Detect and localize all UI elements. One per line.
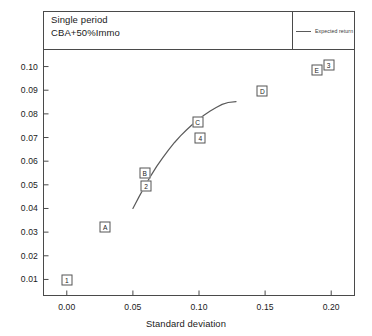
x-tick-label: 0.10 [179, 302, 219, 312]
data-point-marker-3: 3 [323, 60, 334, 71]
x-tick-label: 0.05 [113, 302, 153, 312]
plot-area: 1A2B4CDE3 [43, 50, 355, 296]
x-tick-label: 0.15 [245, 302, 285, 312]
data-point-marker-C: C [192, 117, 203, 128]
x-tick-label: 0.00 [47, 302, 87, 312]
title-line-2: CBA+50%Immo [51, 27, 281, 40]
legend-divider [292, 11, 293, 50]
y-tick-label: 0.08 [4, 109, 38, 119]
x-axis-label: Standard deviation [0, 318, 372, 329]
data-point-marker-2: 2 [141, 181, 152, 192]
data-point-marker-E: E [311, 65, 322, 76]
y-tick-label: 0.10 [4, 62, 38, 72]
y-tick-label: 0.09 [4, 85, 38, 95]
x-tick-label: 0.20 [311, 302, 351, 312]
data-point-marker-B: B [139, 168, 150, 179]
chart-figure: Single period CBA+50%Immo Expected retur… [0, 0, 372, 336]
title-line-1: Single period [51, 14, 281, 27]
chart-title: Single period CBA+50%Immo [51, 14, 281, 39]
y-tick-label: 0.04 [4, 203, 38, 213]
data-point-marker-1: 1 [61, 274, 72, 285]
y-tick-label: 0.05 [4, 180, 38, 190]
y-tick-label: 0.07 [4, 133, 38, 143]
y-tick-label: 0.01 [4, 274, 38, 284]
y-tick-label: 0.02 [4, 251, 38, 261]
y-tick-label: 0.06 [4, 156, 38, 166]
legend: Expected return [296, 24, 354, 38]
legend-line-icon [296, 31, 311, 32]
y-tick-label: 0.03 [4, 227, 38, 237]
data-point-marker-4: 4 [195, 132, 206, 143]
data-point-marker-A: A [100, 221, 111, 232]
data-point-marker-D: D [257, 85, 268, 96]
legend-label-expected-return: Expected return [315, 28, 353, 34]
axes-and-series [43, 50, 355, 296]
